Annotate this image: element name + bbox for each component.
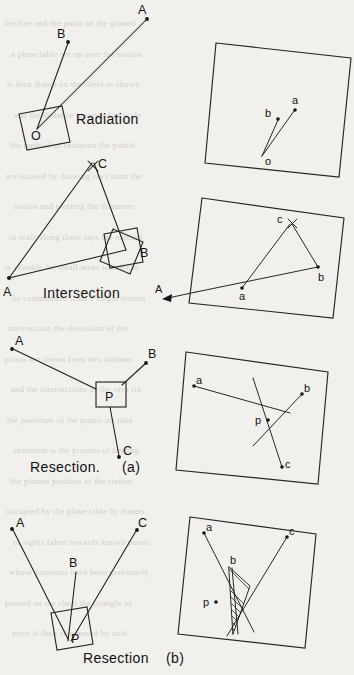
point-C-res-a-dot	[117, 455, 121, 459]
ray-O-B	[37, 43, 68, 129]
arrowhead-A	[162, 294, 172, 302]
label-a-sheet: a	[292, 94, 299, 106]
label-B-resection-b: B	[69, 556, 77, 570]
ray-a-c	[242, 224, 290, 288]
label-c-int: c	[277, 213, 283, 225]
ray-P-C-a	[110, 407, 119, 456]
point-B-res-a-dot	[144, 361, 148, 365]
point-B-dot	[66, 40, 70, 44]
label-b-res-a: b	[304, 382, 310, 394]
resection-a-field-sketch: P A B C Resection. (a)	[10, 334, 156, 475]
label-A-arrow: A	[155, 283, 163, 295]
ray-P-B-b	[68, 572, 76, 641]
intersection-sheet: A a b c	[155, 198, 344, 318]
label-p-res-a: p	[255, 414, 261, 426]
point-a-dot	[293, 108, 297, 112]
point-b-dot	[276, 117, 280, 121]
resection-a-sheet: a b c p	[176, 352, 328, 484]
caption-radiation: Radiation	[76, 111, 139, 127]
sheet-outline-intersection	[189, 198, 344, 318]
label-A-resection-b: A	[16, 516, 25, 530]
label-c-res-a: c	[285, 458, 291, 470]
sheet-outline-resection-b	[178, 517, 316, 648]
label-A-radiation: A	[138, 3, 147, 17]
label-a-int: a	[239, 290, 246, 302]
ray-P-B-a	[122, 363, 146, 385]
sheet-outline-radiation	[205, 43, 351, 177]
label-B-radiation: B	[57, 27, 65, 41]
ray-b-c	[292, 224, 318, 267]
label-A-resection-a: A	[15, 334, 24, 348]
ray-a-b-sheet	[196, 267, 318, 292]
ray-o-b	[262, 120, 278, 156]
label-a-res-b: a	[206, 521, 213, 533]
label-C-intersection: C	[98, 157, 107, 171]
label-A-intersection: A	[3, 285, 12, 299]
point-p-res-b-dot	[214, 600, 218, 604]
plane-table-square-O	[19, 106, 70, 150]
label-b-sheet: b	[265, 107, 271, 119]
figure-page: the line and the point on the grounda pl…	[0, 0, 354, 675]
point-A-res-b-dot	[10, 527, 14, 531]
label-p-res-b: p	[203, 596, 209, 608]
label-P-resection-a: P	[105, 390, 113, 404]
label-a-res-a: a	[196, 374, 203, 386]
resection-b-sheet: a c b p	[178, 517, 316, 656]
ray-P-C-b	[71, 531, 136, 641]
arrow-shaft-A	[168, 292, 196, 298]
ray-P-A-b	[13, 530, 68, 639]
label-C-resection-a: C	[123, 444, 132, 458]
label-C-resection-b: C	[138, 516, 147, 530]
label-b-int: b	[318, 271, 324, 283]
radiation-field-sketch: O A B Radiation	[19, 3, 149, 150]
ray-sheet-c-res-b	[227, 537, 287, 636]
triangle-of-error-outline	[229, 567, 250, 634]
ray-P-A-a	[13, 349, 96, 389]
label-c-res-b: c	[289, 525, 295, 537]
caption-resection-a: Resection.	[30, 459, 100, 475]
radiation-sheet: o b a	[205, 43, 351, 177]
ray-sheet-b-res-b	[232, 568, 238, 634]
intersection-field-sketch: C B A Intersection	[3, 157, 148, 301]
point-p-res-a-dot	[266, 418, 270, 422]
caption-resection-b: Resection	[83, 650, 149, 666]
figure-drawing: O A B Radiation o b a	[0, 0, 354, 675]
triangle-of-error-hatching	[200, 545, 295, 656]
caption-resection-a-sub: (a)	[122, 459, 140, 475]
ray-sheet-a-res-a	[194, 386, 290, 413]
caption-intersection: Intersection	[43, 285, 120, 301]
label-b-res-b: b	[230, 554, 236, 566]
label-o: o	[265, 155, 271, 167]
label-O: O	[31, 129, 41, 143]
point-A-res-a-dot	[10, 347, 14, 351]
caption-resection-b-sub: (b)	[166, 650, 184, 666]
resection-b-field-sketch: P A B C Resection (b)	[10, 516, 184, 666]
label-B-resection-a: B	[148, 347, 156, 361]
sheet-outline-resection-a	[176, 352, 328, 484]
point-A-dot	[145, 17, 149, 21]
label-B-intersection: B	[140, 246, 148, 260]
